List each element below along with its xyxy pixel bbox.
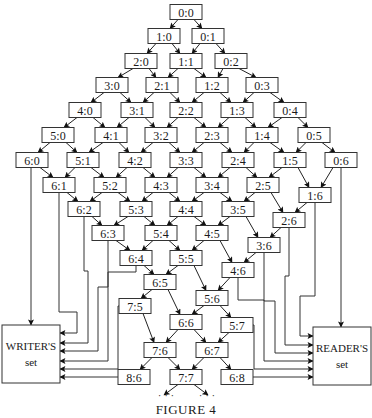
transition-arrow bbox=[89, 143, 103, 153]
state-node-label: 8:6 bbox=[126, 371, 141, 385]
transition-arrow bbox=[166, 330, 178, 343]
transition-arrow bbox=[322, 143, 335, 153]
transition-arrow bbox=[244, 253, 256, 263]
transition-arrow bbox=[142, 193, 153, 202]
transition-arrow bbox=[149, 69, 156, 78]
state-node: 2:3 bbox=[196, 128, 228, 144]
state-node-label: 5:2 bbox=[102, 179, 117, 193]
state-node: 4:5 bbox=[196, 226, 228, 242]
state-node-label: 4:2 bbox=[127, 154, 142, 168]
state-node: 5:6 bbox=[196, 291, 228, 307]
state-node-label: 3:2 bbox=[153, 129, 168, 143]
state-node: 0:3 bbox=[246, 78, 278, 94]
transition-arrow bbox=[218, 278, 230, 291]
state-node-label: 0:1 bbox=[200, 30, 215, 44]
transition-arrow bbox=[295, 203, 307, 213]
state-node: 6:2 bbox=[68, 202, 100, 218]
state-node-label: 3:6 bbox=[256, 239, 271, 253]
state-node-label: 6:2 bbox=[76, 203, 91, 217]
state-node-label: 2:4 bbox=[230, 154, 245, 168]
state-node: 4:6 bbox=[222, 263, 254, 279]
state-node: 6:4 bbox=[120, 251, 152, 267]
state-node-label: 3:4 bbox=[204, 179, 219, 193]
state-node-label: 5:0 bbox=[50, 129, 65, 143]
transition-arrow bbox=[168, 358, 180, 370]
state-node: 2:0 bbox=[125, 54, 157, 70]
transition-arrow bbox=[220, 241, 232, 263]
transition-arrow bbox=[38, 143, 50, 153]
transition-arrow bbox=[194, 168, 206, 178]
transition-arrow bbox=[194, 330, 206, 343]
state-node-label: 1:5 bbox=[282, 154, 297, 168]
state-node-label: 2:0 bbox=[133, 55, 148, 69]
state-node-label: 1:0 bbox=[156, 30, 171, 44]
transition-arrow bbox=[243, 93, 254, 103]
transition-arrow bbox=[192, 306, 204, 315]
transition-arrow bbox=[270, 228, 281, 238]
state-node: 6:6 bbox=[170, 315, 202, 331]
connector-wire bbox=[285, 228, 313, 345]
readers-set-label: READER'S bbox=[316, 342, 368, 354]
transition-arrow bbox=[271, 193, 283, 213]
transition-arrow bbox=[141, 143, 153, 153]
transition-arrow bbox=[192, 241, 204, 251]
transition-arrow bbox=[167, 217, 178, 226]
transition-arrow bbox=[246, 168, 257, 178]
state-node-label: 4:5 bbox=[204, 227, 219, 241]
state-node-label: 3:0 bbox=[104, 79, 119, 93]
state-node: 2:2 bbox=[170, 103, 202, 119]
state-node-label: 1:4 bbox=[254, 129, 269, 143]
transition-arrow bbox=[268, 118, 282, 128]
transition-arrow bbox=[168, 290, 180, 315]
transition-arrow bbox=[218, 168, 230, 178]
state-node-label: 2:6 bbox=[281, 214, 296, 228]
transition-arrow bbox=[170, 93, 180, 103]
state-node-label: 6:3 bbox=[100, 227, 115, 241]
state-node: 5:1 bbox=[67, 153, 99, 169]
state-node: 5:2 bbox=[94, 178, 126, 194]
transition-arrow bbox=[244, 193, 255, 202]
set-connector-wires bbox=[31, 168, 341, 377]
transition-arrow bbox=[145, 118, 155, 128]
transition-arrow bbox=[239, 69, 256, 78]
state-node: 1:5 bbox=[274, 153, 306, 169]
state-node: 4:0 bbox=[69, 103, 101, 119]
transition-arrow bbox=[192, 44, 200, 54]
state-node: 3:4 bbox=[196, 178, 228, 194]
transition-arrow bbox=[116, 241, 130, 251]
state-node: 3:5 bbox=[222, 202, 254, 218]
state-node-label: 6:5 bbox=[152, 276, 167, 290]
state-node-label: 0:2 bbox=[223, 55, 238, 69]
state-node: 6:8 bbox=[221, 370, 253, 386]
state-node-label: 6:4 bbox=[128, 252, 143, 266]
readers-set-box: READER'S set bbox=[313, 327, 371, 385]
state-node-label: 5:7 bbox=[229, 319, 244, 333]
state-node-label: 6:8 bbox=[229, 371, 244, 385]
transition-arrow bbox=[93, 118, 105, 128]
state-node: 4:1 bbox=[95, 128, 127, 144]
continuation-dots-left: · · · bbox=[158, 389, 175, 401]
transition-arrow bbox=[114, 217, 128, 226]
state-node: 3:3 bbox=[170, 153, 202, 169]
state-node: 7:6 bbox=[144, 343, 176, 359]
transition-arrow bbox=[118, 193, 130, 202]
transition-arrow bbox=[169, 143, 180, 153]
state-node-label: 5:6 bbox=[204, 292, 219, 306]
state-node: 0:2 bbox=[215, 54, 247, 70]
state-node: 5:7 bbox=[221, 318, 253, 334]
transition-arrow bbox=[147, 44, 156, 54]
state-node: 1:4 bbox=[246, 128, 278, 144]
transition-arrow bbox=[194, 266, 206, 291]
state-node-label: 5:4 bbox=[153, 227, 168, 241]
lattice-nodes: 0:01:00:12:01:10:23:02:11:20:34:03:12:21… bbox=[16, 5, 357, 386]
state-node-label: 3:5 bbox=[230, 203, 245, 217]
transition-arrow bbox=[270, 143, 284, 153]
transition-arrow bbox=[194, 118, 206, 128]
transition-arrow bbox=[144, 217, 155, 226]
state-node-label: 0:6 bbox=[333, 154, 348, 168]
state-node-label: 5:5 bbox=[178, 252, 193, 266]
state-node-label: 6:7 bbox=[204, 344, 219, 358]
state-node-label: 2:2 bbox=[178, 104, 193, 118]
state-node-label: 4:0 bbox=[77, 104, 92, 118]
figure-caption: FIGURE 4 bbox=[156, 402, 217, 417]
